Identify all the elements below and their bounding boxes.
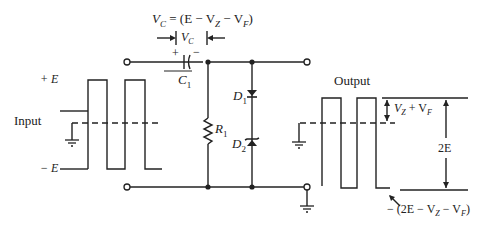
input-neg-level: − E [40, 162, 58, 174]
diode-d2-icon [247, 140, 257, 146]
output-peak-to-peak: 2E [438, 142, 451, 154]
vc-dimension-label: VC [181, 31, 194, 46]
output-low-level: − (2E − VZ − VF) [387, 203, 470, 218]
output-title: Output [334, 74, 370, 87]
diode1-label: D1 [233, 89, 247, 106]
vc-equation: VC = (E − VZ − VF) [152, 12, 253, 29]
resistor-r1 [204, 118, 212, 144]
output-square-wave [322, 98, 390, 188]
output-shift-label: VZ + VF [394, 102, 432, 117]
diode2-label: D2 [232, 137, 246, 154]
resistor-label: R1 [215, 122, 227, 139]
input-square-wave [88, 80, 162, 169]
ground-icons [65, 140, 314, 212]
clamper-circuit-diagram: VC = (E − VZ − VF) VC + − C1 R1 D1 D2 In… [0, 0, 498, 230]
cap-minus-label: − [193, 46, 200, 58]
capacitor-label: C1 [178, 73, 191, 90]
diode-d1-icon [247, 90, 257, 96]
input-pos-level: + E [40, 73, 58, 85]
cap-plus-label: + [172, 47, 179, 59]
input-title: Input [14, 114, 41, 127]
